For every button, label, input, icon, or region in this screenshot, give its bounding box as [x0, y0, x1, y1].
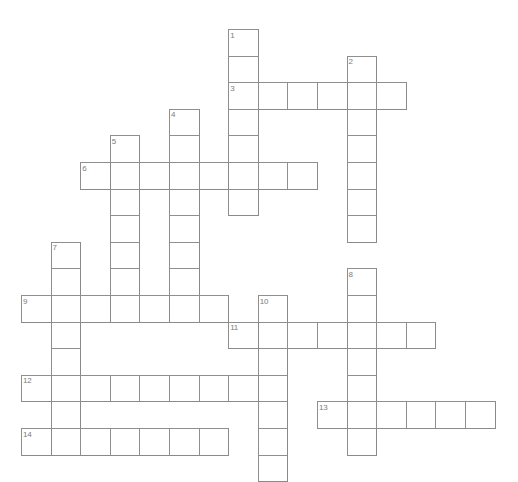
crossword-cell[interactable] [376, 322, 407, 350]
crossword-cell[interactable] [406, 401, 437, 429]
crossword-cell[interactable] [228, 109, 259, 137]
crossword-cell[interactable] [317, 322, 348, 350]
crossword-cell[interactable] [139, 295, 170, 323]
crossword-cell[interactable] [199, 428, 230, 456]
crossword-cell[interactable] [110, 135, 141, 163]
crossword-cell[interactable] [258, 348, 289, 376]
crossword-cell[interactable] [317, 82, 348, 110]
crossword-cell[interactable] [139, 375, 170, 403]
crossword-cell[interactable] [258, 455, 289, 482]
crossword-cell[interactable] [21, 428, 52, 456]
crossword-cell[interactable] [51, 428, 82, 456]
crossword-cell[interactable] [347, 56, 378, 84]
crossword-cell[interactable] [287, 82, 318, 110]
crossword-cell[interactable] [347, 82, 378, 110]
crossword-cell[interactable] [228, 29, 259, 57]
crossword-cell[interactable] [51, 295, 82, 323]
crossword-cell[interactable] [51, 375, 82, 403]
crossword-cell[interactable] [406, 322, 437, 350]
crossword-cell[interactable] [51, 401, 82, 429]
crossword-cell[interactable] [169, 428, 200, 456]
crossword-cell[interactable] [139, 162, 170, 190]
crossword-cell[interactable] [169, 109, 200, 137]
crossword-cell[interactable] [347, 268, 378, 296]
crossword-cell[interactable] [228, 162, 259, 190]
crossword-cell[interactable] [228, 375, 259, 403]
crossword-cell[interactable] [51, 242, 82, 270]
crossword-cell[interactable] [169, 215, 200, 243]
crossword-cell[interactable] [228, 135, 259, 163]
crossword-cell[interactable] [347, 189, 378, 217]
crossword-cell[interactable] [51, 348, 82, 376]
crossword-cell[interactable] [347, 428, 378, 456]
crossword-cell[interactable] [258, 295, 289, 323]
crossword-cell[interactable] [80, 295, 111, 323]
crossword-cell[interactable] [139, 428, 170, 456]
crossword-cell[interactable] [51, 268, 82, 296]
crossword-cell[interactable] [347, 401, 378, 429]
crossword-cell[interactable] [258, 82, 289, 110]
crossword-cell[interactable] [258, 401, 289, 429]
crossword-cell[interactable] [169, 189, 200, 217]
crossword-cell[interactable] [51, 322, 82, 350]
crossword-cell[interactable] [287, 162, 318, 190]
crossword-cell[interactable] [317, 401, 348, 429]
crossword-cell[interactable] [80, 162, 111, 190]
crossword-cell[interactable] [21, 375, 52, 403]
crossword-cell[interactable] [287, 322, 318, 350]
crossword-cell[interactable] [110, 162, 141, 190]
crossword-cell[interactable] [80, 375, 111, 403]
crossword-cell[interactable] [110, 189, 141, 217]
crossword-cell[interactable] [347, 135, 378, 163]
crossword-cell[interactable] [228, 56, 259, 84]
crossword-cell[interactable] [376, 82, 407, 110]
crossword-cell[interactable] [347, 375, 378, 403]
crossword-cell[interactable] [258, 375, 289, 403]
crossword-cell[interactable] [169, 295, 200, 323]
crossword-cell[interactable] [258, 162, 289, 190]
crossword-cell[interactable] [199, 295, 230, 323]
crossword-cell[interactable] [347, 162, 378, 190]
crossword-cell[interactable] [258, 322, 289, 350]
crossword-cell[interactable] [110, 215, 141, 243]
crossword-cell[interactable] [376, 401, 407, 429]
crossword-cell[interactable] [347, 215, 378, 243]
crossword-cell[interactable] [169, 135, 200, 163]
crossword-cell[interactable] [228, 189, 259, 217]
crossword-cell[interactable] [169, 268, 200, 296]
crossword-cell[interactable] [228, 82, 259, 110]
crossword-cell[interactable] [169, 162, 200, 190]
crossword-cell[interactable] [21, 295, 52, 323]
crossword-cell[interactable] [347, 348, 378, 376]
crossword-cell[interactable] [347, 295, 378, 323]
crossword-cell[interactable] [80, 428, 111, 456]
crossword-cell[interactable] [258, 428, 289, 456]
crossword-cell[interactable] [110, 428, 141, 456]
crossword-cell[interactable] [228, 322, 259, 350]
crossword-cell[interactable] [465, 401, 496, 429]
crossword-cell[interactable] [347, 322, 378, 350]
crossword-cell[interactable] [435, 401, 466, 429]
crossword-cell[interactable] [169, 375, 200, 403]
crossword-cell[interactable] [169, 242, 200, 270]
crossword-cell[interactable] [110, 375, 141, 403]
crossword-cell[interactable] [110, 268, 141, 296]
crossword-cell[interactable] [199, 375, 230, 403]
crossword-cell[interactable] [347, 109, 378, 137]
crossword-cell[interactable] [199, 162, 230, 190]
crossword-cell[interactable] [110, 242, 141, 270]
crossword-cell[interactable] [110, 295, 141, 323]
